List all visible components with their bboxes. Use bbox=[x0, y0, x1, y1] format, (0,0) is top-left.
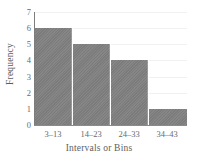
bars-layer bbox=[35, 12, 187, 125]
y-axis-tick-label: 7 bbox=[20, 8, 31, 17]
plot-area bbox=[34, 12, 187, 125]
x-axis-tick-label: 24–33 bbox=[110, 127, 148, 141]
y-axis-tick-label: 5 bbox=[20, 40, 31, 49]
histogram-bar bbox=[73, 44, 111, 125]
y-axis-tick-labels: 01234567 bbox=[20, 0, 33, 128]
y-axis-tick-label: 3 bbox=[20, 72, 31, 81]
bar-slot bbox=[73, 12, 111, 125]
y-axis-tick-label: 6 bbox=[20, 24, 31, 33]
y-axis-title: Frequency bbox=[0, 0, 20, 128]
y-axis-tick-label: 1 bbox=[20, 105, 31, 114]
y-axis-title-text: Frequency bbox=[5, 43, 15, 85]
bar-slot bbox=[149, 12, 187, 125]
x-axis-tick-label: 14–23 bbox=[72, 127, 110, 141]
y-axis-tick-label: 2 bbox=[20, 88, 31, 97]
x-axis-tick-labels: 3–1314–2324–3334–43 bbox=[34, 127, 186, 141]
bar-slot bbox=[111, 12, 149, 125]
histogram-bar bbox=[111, 60, 149, 125]
histogram-figure: Frequency 01234567 3–1314–2324–3334–43 I… bbox=[0, 0, 198, 164]
y-axis-tick-label: 0 bbox=[20, 121, 31, 130]
bar-slot bbox=[35, 12, 73, 125]
histogram-bar bbox=[149, 109, 187, 125]
x-axis-tick-label: 3–13 bbox=[34, 127, 72, 141]
x-axis-line bbox=[34, 125, 187, 126]
histogram-bar bbox=[35, 28, 73, 125]
y-axis-tick-label: 4 bbox=[20, 56, 31, 65]
x-axis-tick-label: 34–43 bbox=[148, 127, 186, 141]
x-axis-title: Intervals or Bins bbox=[0, 143, 198, 153]
